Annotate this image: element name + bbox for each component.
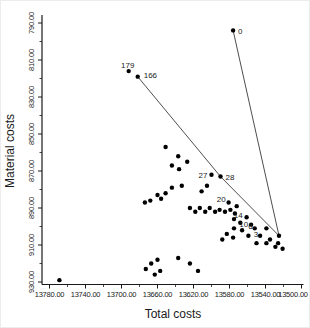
data-point (199, 189, 203, 193)
data-point-label: 27 (199, 171, 208, 180)
trajectory-line (138, 77, 279, 236)
data-point (280, 247, 284, 251)
y-tick-label: 890.00 (27, 197, 36, 219)
y-tick-label: 830.00 (27, 86, 36, 108)
data-point (235, 204, 239, 208)
y-axis-title: Material costs (3, 114, 17, 188)
y-tick-label: 790.00 (27, 12, 36, 34)
scatter-plot-figure: 790.00810.00830.00850.00870.00890.00910.… (0, 0, 310, 328)
data-point (232, 226, 236, 230)
data-point (155, 258, 159, 262)
data-point (180, 184, 184, 188)
x-axis-title: Total costs (145, 307, 202, 321)
x-tick-label: 13620.00 (179, 290, 209, 299)
data-point (170, 185, 174, 189)
data-point-label: 20 (217, 195, 226, 204)
x-tick-label: 13740.00 (71, 290, 101, 299)
labeled-data-point (209, 173, 213, 177)
data-point (143, 200, 147, 204)
data-point (220, 237, 224, 241)
labeled-data-point (218, 174, 222, 178)
x-tick-label: 13700.00 (107, 290, 137, 299)
data-point (228, 208, 232, 212)
data-point (246, 234, 250, 238)
data-point (163, 191, 167, 195)
data-point (240, 228, 244, 232)
labeled-data-point (231, 28, 235, 32)
data-point (170, 163, 174, 167)
data-point (163, 145, 167, 149)
data-point-label: 6 (248, 222, 253, 231)
trajectory-line (233, 30, 279, 235)
data-point-label: 166 (144, 71, 158, 80)
data-point (213, 210, 217, 214)
data-point (264, 226, 268, 230)
data-point (223, 210, 227, 214)
x-tick-label: 13540.00 (251, 290, 281, 299)
data-point (273, 245, 277, 249)
data-point (185, 160, 189, 164)
data-point-label: 179 (121, 61, 135, 70)
data-point (203, 210, 207, 214)
data-point (176, 256, 180, 260)
data-point (268, 237, 272, 241)
x-tick-label: 13780.00 (35, 290, 65, 299)
x-tick-label: 13500.00 (278, 290, 308, 299)
data-point (205, 184, 209, 188)
data-point (188, 206, 192, 210)
data-point (144, 267, 148, 271)
y-tick-label: 910.00 (27, 234, 36, 256)
data-point-label: 3 (254, 230, 259, 239)
data-point (177, 167, 181, 171)
data-point (148, 198, 152, 202)
data-point (176, 154, 180, 158)
data-point (276, 241, 280, 245)
data-point (149, 261, 153, 265)
data-point (57, 278, 61, 282)
y-tick-label: 850.00 (27, 123, 36, 145)
y-tick-label: 870.00 (27, 160, 36, 182)
x-tick-label: 13660.00 (143, 290, 173, 299)
data-point (264, 241, 268, 245)
data-point (254, 241, 258, 245)
data-point (231, 235, 235, 239)
data-point (159, 197, 163, 201)
data-point-label: 10 (239, 220, 248, 229)
data-point (155, 193, 159, 197)
labeled-data-point (226, 200, 230, 204)
data-point (196, 269, 200, 273)
data-point (188, 261, 192, 265)
data-point (198, 206, 202, 210)
y-tick-label: 810.00 (27, 49, 36, 71)
data-point (153, 272, 157, 276)
data-point (277, 234, 281, 238)
data-point (217, 208, 221, 212)
data-point (225, 232, 229, 236)
labeled-data-point (136, 74, 140, 78)
data-point (158, 269, 162, 273)
data-point-label: 28 (226, 173, 235, 182)
labeled-data-point (258, 234, 262, 238)
data-point (193, 210, 197, 214)
x-tick-label: 13580.00 (215, 290, 245, 299)
data-point (208, 206, 212, 210)
data-point-label: 0 (238, 27, 243, 36)
scatter-chart: 790.00810.00830.00850.00870.00890.00910.… (1, 1, 310, 328)
